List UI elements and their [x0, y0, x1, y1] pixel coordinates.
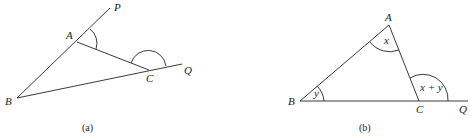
figure-b: A B C Q x y x + y (b): [288, 11, 468, 134]
segment-AC: [77, 42, 149, 70]
figure-a: P A C Q B (a): [5, 1, 192, 134]
angle-label-x-plus-y: x + y: [419, 81, 443, 93]
exterior-angle-arc-C: [131, 50, 166, 66]
line-BQ: [17, 64, 182, 98]
label-Q: Q: [459, 103, 467, 115]
label-P: P: [113, 1, 121, 13]
label-C: C: [416, 103, 424, 115]
label-C: C: [146, 72, 154, 84]
label-A: A: [65, 29, 73, 41]
caption-b: (b): [359, 122, 371, 134]
line-BP: [17, 8, 110, 98]
segment-AC: [389, 25, 419, 101]
triangle-angle-diagrams: P A C Q B (a) A B C Q x y x + y (b): [0, 0, 470, 139]
caption-a: (a): [82, 122, 93, 134]
exterior-angle-arc-A: [90, 29, 97, 49]
label-Q: Q: [184, 64, 192, 76]
label-B: B: [288, 95, 295, 107]
angle-label-x: x: [383, 34, 389, 46]
label-B: B: [5, 95, 12, 107]
angle-label-y: y: [313, 87, 319, 99]
label-A: A: [384, 11, 392, 23]
